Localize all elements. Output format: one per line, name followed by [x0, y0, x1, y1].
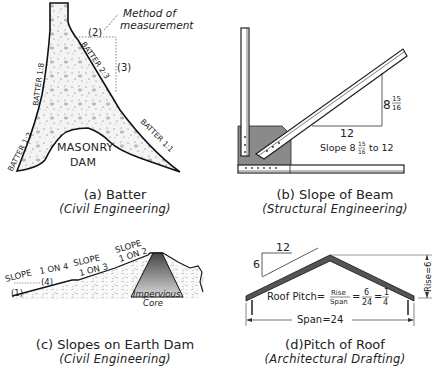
pitch-24-den: 24: [362, 298, 372, 307]
slope-numerator: 15: [358, 140, 366, 147]
caption-b-subtitle: (Structural Engineering): [230, 203, 440, 216]
slope-denominator: 16: [358, 148, 366, 155]
on4-label: 1 ON 4: [39, 261, 70, 276]
method-label: Method of: [123, 7, 178, 19]
caption-d-subtitle: (Architectural Drafting): [235, 353, 435, 366]
panel-c-earth-dam: SLOPE (1) 1 ON 4 (4) SLOPE 1 ON 3 SLOPE …: [4, 238, 204, 308]
rise-numerator: 15: [392, 95, 401, 103]
pitch-prefix: Roof Pitch=: [267, 291, 325, 302]
pitch-1-num: 1: [384, 288, 389, 297]
panel-d-roof-pitch: 12 6 Span=24 Rise=6 Roof Pitch= Rise Spa…: [246, 241, 433, 326]
pitch-6-num: 6: [364, 288, 369, 297]
caption-a-subtitle: (Civil Engineering): [10, 203, 220, 216]
caption-c: (c) Slopes on Earth Dam (Civil Engineeri…: [5, 338, 225, 366]
equals-1: =: [352, 291, 360, 302]
core-label: Core: [143, 298, 163, 308]
dam-label: DAM: [70, 156, 96, 169]
label-2: (2): [88, 27, 102, 38]
pitch-rise-num: Rise: [331, 289, 346, 297]
panel-a-batter: Method of measurement (2) (3) BATTER 2:3…: [6, 3, 195, 173]
pitch-span-den: Span: [330, 298, 348, 306]
rise-whole: 8: [383, 98, 391, 112]
run-12-label: 12: [276, 241, 290, 254]
measurement-label: measurement: [120, 19, 194, 31]
rise-denominator: 16: [392, 104, 401, 112]
span-label: Span=24: [297, 314, 343, 325]
label-3: (3): [117, 62, 131, 73]
slope-suffix: to 12: [369, 142, 394, 153]
caption-b-title: (b) Slope of Beam: [230, 188, 440, 203]
panel-b-slope-of-beam: 8 15 16 12 Slope 8 15 16 to 12: [238, 28, 407, 173]
caption-c-title: (c) Slopes on Earth Dam: [5, 338, 225, 353]
masonry-label: MASONRY: [57, 141, 114, 154]
caption-a: (a) Batter (Civil Engineering): [10, 188, 220, 216]
slope1-label: SLOPE: [4, 267, 33, 284]
four-label: (4): [41, 277, 53, 287]
run-label: 12: [340, 127, 354, 140]
rise-6-label: 6: [253, 258, 260, 271]
caption-c-subtitle: (Civil Engineering): [5, 353, 225, 366]
slope-prefix: Slope 8: [320, 142, 355, 153]
pitch-4-den: 4: [383, 298, 388, 307]
caption-d: (d)Pitch of Roof (Architectural Drafting…: [235, 338, 435, 366]
caption-a-title: (a) Batter: [10, 188, 220, 203]
caption-b: (b) Slope of Beam (Structural Engineerin…: [230, 188, 440, 216]
caption-d-title: (d)Pitch of Roof: [235, 338, 435, 353]
one-label: (1): [11, 288, 23, 298]
equals-2: =: [374, 291, 382, 302]
rise-dim-label: Rise=6: [423, 262, 433, 292]
